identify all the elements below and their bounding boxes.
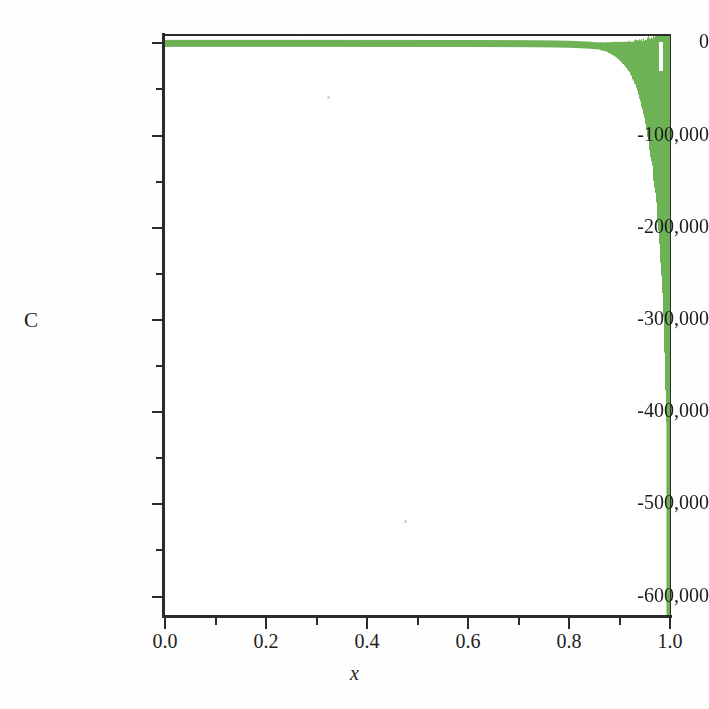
y-tick-major <box>152 596 165 598</box>
y-tick-label: -400,000 <box>561 399 709 422</box>
y-tick-label: -300,000 <box>561 307 709 330</box>
y-axis-title: C <box>24 308 38 333</box>
y-tick-minor <box>156 457 165 459</box>
x-tick-major <box>669 617 671 629</box>
x-tick-label: 0.8 <box>529 630 609 653</box>
y-tick-label: -600,000 <box>561 584 709 607</box>
x-tick-label: 0.0 <box>125 630 205 653</box>
x-tick-major <box>568 617 570 629</box>
y-tick-label: -100,000 <box>561 123 709 146</box>
scan-speckle <box>404 520 407 523</box>
y-tick-major <box>152 503 165 505</box>
y-tick-major <box>152 42 165 44</box>
y-tick-minor <box>156 181 165 183</box>
y-tick-label: -200,000 <box>561 215 709 238</box>
y-tick-label: -500,000 <box>561 491 709 514</box>
x-tick-label: 0.4 <box>327 630 407 653</box>
y-tick-major <box>152 411 165 413</box>
y-tick-major <box>152 227 165 229</box>
x-axis-title: x <box>0 662 709 685</box>
x-tick-major <box>366 617 368 629</box>
x-tick-major <box>467 617 469 629</box>
y-tick-minor <box>156 88 165 90</box>
x-tick-minor <box>619 617 621 625</box>
y-tick-minor <box>156 549 165 551</box>
chart-figure: 0-100,000-200,000-300,000-400,000-500,00… <box>0 0 709 709</box>
x-tick-label: 1.0 <box>630 630 709 653</box>
x-tick-minor <box>518 617 520 625</box>
y-tick-label: 0 <box>561 30 709 53</box>
y-tick-major <box>152 319 165 321</box>
x-tick-minor <box>215 617 217 625</box>
scan-speckle <box>327 96 330 99</box>
y-tick-major <box>152 135 165 137</box>
x-tick-label: 0.2 <box>226 630 306 653</box>
x-tick-minor <box>417 617 419 625</box>
x-tick-major <box>265 617 267 629</box>
x-tick-major <box>164 617 166 629</box>
x-tick-label: 0.6 <box>428 630 508 653</box>
y-tick-minor <box>156 273 165 275</box>
y-tick-minor <box>156 365 165 367</box>
x-tick-minor <box>316 617 318 625</box>
